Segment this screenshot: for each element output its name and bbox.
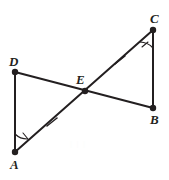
vertex-dot-E	[82, 88, 88, 94]
vertex-label-D: D	[9, 55, 18, 68]
vertex-label-A: A	[10, 158, 19, 171]
vertex-dot-A	[12, 149, 18, 155]
tick-mark-EC	[115, 56, 125, 64]
vertex-dot-B	[150, 105, 156, 111]
watermark: l l l	[70, 140, 86, 150]
vertex-label-C: C	[150, 12, 159, 25]
geometry-canvas	[0, 0, 169, 180]
vertex-label-B: B	[150, 113, 159, 126]
vertex-dot-C	[150, 27, 156, 33]
vertex-dot-D	[12, 69, 18, 75]
vertex-label-E: E	[76, 73, 85, 86]
geometry-diagram: D A C B E l l l	[0, 0, 169, 180]
